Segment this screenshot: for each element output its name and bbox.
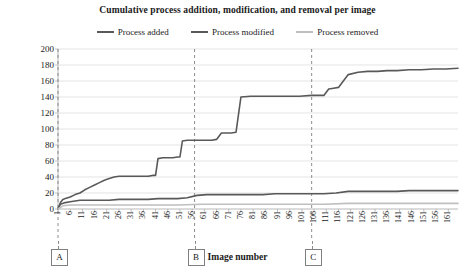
x-tick-label: 71 — [225, 211, 233, 219]
x-tick-label: 121 — [347, 211, 355, 223]
x-tick-label: 101 — [298, 211, 306, 223]
x-tick-label: 76 — [237, 211, 245, 219]
x-tick-label: 126 — [359, 211, 367, 223]
marker-stem-b — [195, 241, 196, 249]
y-tick-label: 20 — [28, 189, 54, 198]
marker-stem-a — [58, 241, 59, 249]
marker-stem-c — [312, 241, 313, 249]
y-tick-label: 100 — [28, 125, 54, 134]
legend-item-process-added: Process added — [97, 27, 169, 37]
legend-label: Process added — [118, 27, 169, 37]
x-tick-label: 91 — [274, 211, 282, 219]
legend-swatch-icon — [191, 31, 208, 33]
x-tick-label: 116 — [334, 211, 342, 223]
legend-swatch-icon — [97, 31, 114, 33]
marker-label-b: B — [188, 249, 205, 266]
x-tick-label: 31 — [127, 211, 135, 219]
chart-legend: Process addedProcess modifiedProcess rem… — [0, 27, 475, 37]
legend-label: Process removed — [317, 27, 378, 37]
x-tick-label: 146 — [408, 211, 416, 223]
y-tick-label: 0 — [28, 205, 54, 214]
x-tick-label: 36 — [139, 211, 147, 219]
x-tick-label: 156 — [432, 211, 440, 223]
x-tick-label: 151 — [420, 211, 428, 223]
x-tick-label: 1 — [54, 211, 62, 215]
x-tick-label: 131 — [371, 211, 379, 223]
x-axis-title: Image number — [0, 252, 475, 262]
marker-label-c: C — [305, 249, 322, 266]
x-axis-tick-labels: 1611162126313641465156616671768186919610… — [58, 211, 458, 243]
series-line-process-removed — [58, 203, 458, 209]
y-tick-label: 180 — [28, 61, 54, 70]
series-line-process-added — [58, 68, 458, 209]
legend-item-process-modified: Process modified — [191, 27, 274, 37]
x-tick-label: 111 — [322, 211, 330, 222]
x-tick-label: 46 — [164, 211, 172, 219]
y-tick-label: 120 — [28, 109, 54, 118]
y-tick-label: 140 — [28, 93, 54, 102]
x-tick-label: 96 — [286, 211, 294, 219]
y-tick-label: 80 — [28, 141, 54, 150]
x-tick-label: 86 — [261, 211, 269, 219]
x-tick-label: 21 — [103, 211, 111, 219]
y-tick-label: 60 — [28, 157, 54, 166]
y-tick-label: 40 — [28, 173, 54, 182]
x-tick-label: 136 — [383, 211, 391, 223]
y-axis-tick-labels: 020406080100120140160180200 — [28, 49, 54, 209]
x-tick-label: 26 — [115, 211, 123, 219]
x-tick-label: 66 — [213, 211, 221, 219]
x-tick-label: 141 — [395, 211, 403, 223]
y-tick-label: 160 — [28, 77, 54, 86]
x-tick-label: 41 — [152, 211, 160, 219]
series-line-process-modified — [58, 191, 458, 209]
plot-area — [58, 49, 458, 209]
chart-container: Cumulative process addition, modificatio… — [0, 0, 475, 277]
x-tick-label: 161 — [444, 211, 452, 223]
legend-label: Process modified — [212, 27, 274, 37]
marker-label-a: A — [51, 249, 68, 266]
x-tick-label: 16 — [91, 211, 99, 219]
legend-swatch-icon — [296, 31, 313, 33]
x-tick-label: 11 — [78, 211, 86, 219]
x-tick-label: 106 — [310, 211, 318, 223]
chart-title: Cumulative process addition, modificatio… — [0, 5, 475, 15]
y-tick-label: 200 — [28, 45, 54, 54]
legend-item-process-removed: Process removed — [296, 27, 378, 37]
x-tick-label: 61 — [200, 211, 208, 219]
x-tick-label: 56 — [188, 211, 196, 219]
x-tick-label: 51 — [176, 211, 184, 219]
x-tick-label: 81 — [249, 211, 257, 219]
x-tick-label: 6 — [66, 211, 74, 215]
